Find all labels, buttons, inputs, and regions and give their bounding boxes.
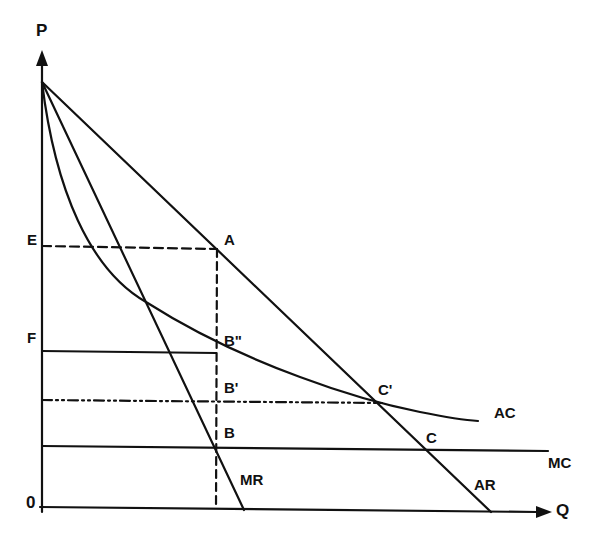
ac-curve-label: AC (494, 405, 516, 420)
point-b-double-prime-label: B" (224, 333, 242, 348)
f-price-line (42, 351, 216, 353)
quantity-axis (40, 507, 537, 512)
price-level-f-label: F (27, 330, 36, 345)
mc-curve-label: MC (548, 455, 571, 470)
ar-curve-label: AR (474, 477, 496, 492)
monopoly-cost-revenue-diagram (0, 0, 597, 541)
point-c-label: C (426, 430, 437, 445)
quantity-axis-arrow-icon (536, 506, 552, 518)
point-c-prime-label: C' (378, 382, 392, 397)
mr-curve-label: MR (240, 472, 263, 487)
point-b-label: B (224, 425, 235, 440)
price-level-e-label: E (27, 232, 37, 247)
origin-label: 0 (26, 494, 35, 511)
point-b-prime-label: B' (224, 380, 238, 395)
point-a-label: A (224, 232, 235, 247)
e-price-dashed-line (42, 246, 217, 249)
quantity-axis-label: Q (556, 502, 569, 519)
ac-curve (42, 82, 478, 421)
price-axis-label: P (36, 22, 47, 39)
mc-curve (42, 446, 548, 451)
output-dashed-line (216, 249, 217, 508)
price-axis-arrow-icon (36, 50, 48, 66)
b-prime-dashdot-line (42, 400, 382, 403)
